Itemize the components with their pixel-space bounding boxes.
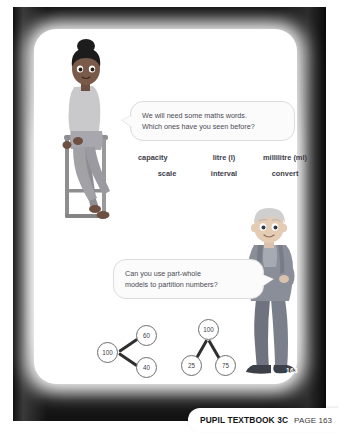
footer-source-label: PUPIL TEXTBOOK 3C PAGE 163	[188, 408, 339, 432]
bubble-tail-right	[261, 274, 273, 287]
vocabulary-word-litre: litre (l)	[196, 153, 252, 162]
bubble-tail-left	[122, 115, 133, 128]
pw-whole-node: 100	[97, 342, 118, 363]
speech-bubble-maths-words: We will need some maths words. Which one…	[130, 101, 295, 141]
bubble-partwhole-line-2: models to partition numbers?	[125, 279, 253, 290]
bubble-partwhole-line-1: Can you use part-whole	[125, 268, 253, 279]
pw-part-node-a: 25	[181, 355, 202, 376]
part-whole-models-group: 100 60 40 100 25 75	[94, 317, 254, 389]
girl-sitting-on-stool-illustration	[48, 39, 124, 229]
footer-page-label: PAGE 163	[294, 416, 332, 425]
vocabulary-word-scale: scale	[138, 169, 196, 178]
vocabulary-word-millilitre: millilitre (ml)	[252, 153, 318, 162]
pw-link-whole-to-part-b	[118, 352, 138, 366]
pw-link-whole-to-part-a	[118, 338, 138, 352]
bubble-vocab-line-1: We will need some maths words.	[142, 110, 284, 121]
part-whole-model-horizontal: 100 60 40	[94, 323, 160, 379]
vocabulary-word-list: capacity litre (l) millilitre (ml) scale…	[138, 153, 318, 185]
slide-frame: We will need some maths words. Which one…	[13, 7, 326, 421]
pw-part-node-b: 40	[136, 357, 157, 378]
footer-textbook-title: PUPIL TEXTBOOK 3C	[200, 415, 288, 425]
bubble-vocab-line-2: Which ones have you seen before?	[142, 121, 284, 132]
pw-part-node-b: 75	[215, 355, 236, 376]
slide-content-panel: We will need some maths words. Which one…	[34, 29, 297, 384]
vocabulary-row: scale interval convert	[138, 169, 318, 178]
vocabulary-word-interval: interval	[196, 169, 252, 178]
vocabulary-word-convert: convert	[252, 169, 318, 178]
part-whole-model-vertical: 100 25 75	[178, 317, 240, 379]
speech-bubble-part-whole: Can you use part-whole models to partiti…	[113, 259, 264, 299]
pw-whole-node: 100	[198, 319, 219, 340]
slide-corner-page-number: 163	[286, 367, 298, 374]
vocabulary-word-capacity: capacity	[138, 153, 196, 162]
pw-part-node-a: 60	[136, 325, 157, 346]
vocabulary-row: capacity litre (l) millilitre (ml)	[138, 153, 318, 162]
